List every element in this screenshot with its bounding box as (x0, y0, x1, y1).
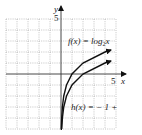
f-label-text: f(x) = log (68, 36, 103, 46)
f-label: f(x) = log2x (68, 36, 110, 47)
x-axis-label: x (120, 76, 125, 86)
x-tick-5: 5 (111, 76, 116, 86)
h-curve (62, 61, 111, 129)
log-function-plot: y 5 5 x f(x) = log2x h(x) = − 1 + (0, 0, 142, 135)
h-label: h(x) = − 1 + (71, 102, 117, 112)
f-label-var: x (105, 36, 110, 46)
y-tick-5: 5 (54, 13, 59, 23)
